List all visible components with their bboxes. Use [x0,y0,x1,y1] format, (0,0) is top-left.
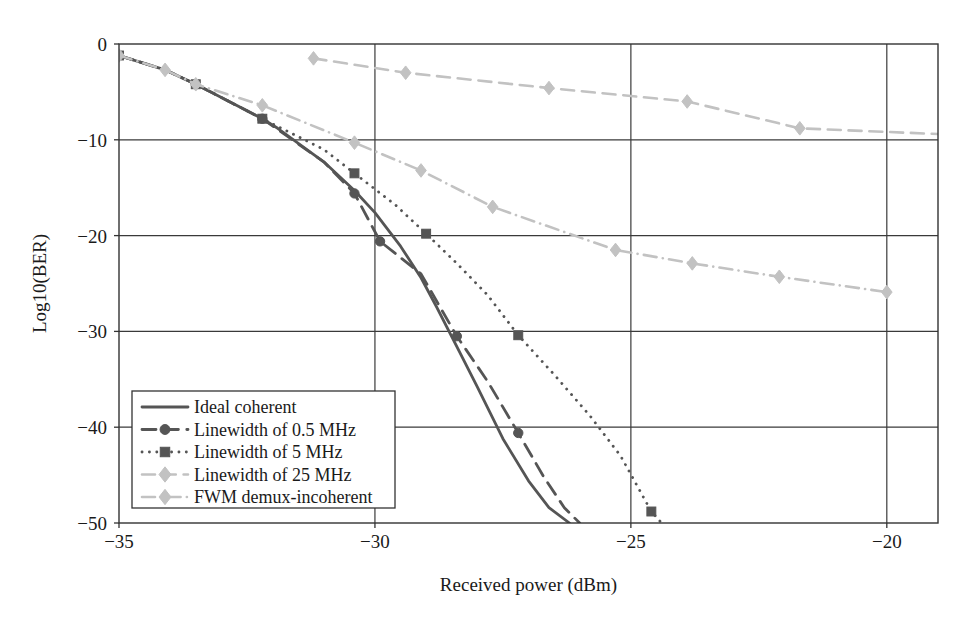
data-point-marker-diamond [349,136,360,150]
data-point-marker-diamond [882,285,893,299]
x-axis-tick-label: −35 [104,531,134,552]
x-axis-tick-labels: −35−30−25−20 [104,523,902,552]
data-point-marker-square [514,331,523,340]
legend: Ideal coherentLinewidth of 0.5 MHzLinewi… [132,391,395,508]
data-point-marker-diamond [308,52,319,66]
series-4 [308,52,938,136]
data-point-marker-diamond [774,270,785,284]
chart-figure: −35−30−25−20 0−10−20−30−40−50 Received p… [0,0,976,626]
data-point-marker-diamond [682,95,693,109]
y-axis-tick-labels: 0−10−20−30−40−50 [77,34,119,534]
x-axis-tick-label: −30 [360,531,390,552]
data-point-marker-circle [350,189,359,198]
x-axis-tick-label: −25 [616,531,646,552]
data-point-marker-diamond [400,66,411,80]
data-point-marker-diamond [687,257,698,271]
data-point-marker-diamond [544,81,555,95]
legend-label-3: Linewidth of 5 MHz [194,442,342,462]
legend-label-5: FWM demux-incoherent [194,487,372,507]
legend-marker-sample-3 [160,447,169,456]
data-point-marker-square [350,169,359,178]
legend-label-4: Linewidth of 25 MHz [194,465,351,485]
y-axis-tick-label: −30 [77,321,107,342]
data-point-marker-square [258,114,267,123]
legend-label-1: Ideal coherent [194,397,296,417]
data-point-marker-circle [514,428,523,437]
y-axis-tick-label: −40 [77,417,107,438]
y-axis-tick-label: −10 [77,130,107,151]
data-point-marker-diamond [257,99,268,113]
data-point-marker-diamond [416,164,427,178]
data-point-marker-diamond [610,243,621,257]
x-axis-title: Received power (dBm) [440,574,617,596]
y-axis-tick-label: −20 [77,226,107,247]
data-point-marker-diamond [160,63,171,77]
series-line-5 [119,56,887,293]
ber-vs-received-power-chart: −35−30−25−20 0−10−20−30−40−50 Received p… [0,0,976,626]
y-axis-tick-label: 0 [98,34,108,55]
data-point-marker-circle [375,237,384,246]
data-point-marker-diamond [487,200,498,214]
y-axis-tick-label: −50 [77,513,107,534]
series-5 [114,49,892,299]
x-axis-tick-label: −20 [872,531,902,552]
legend-label-2: Linewidth of 0.5 MHz [194,420,356,440]
data-point-marker-square [422,229,431,238]
legend-marker-sample-2 [160,425,170,435]
data-point-marker-square [647,507,656,516]
y-axis-title: Log10(BER) [29,234,51,333]
data-point-marker-circle [452,332,461,341]
data-point-marker-diamond [794,122,805,136]
